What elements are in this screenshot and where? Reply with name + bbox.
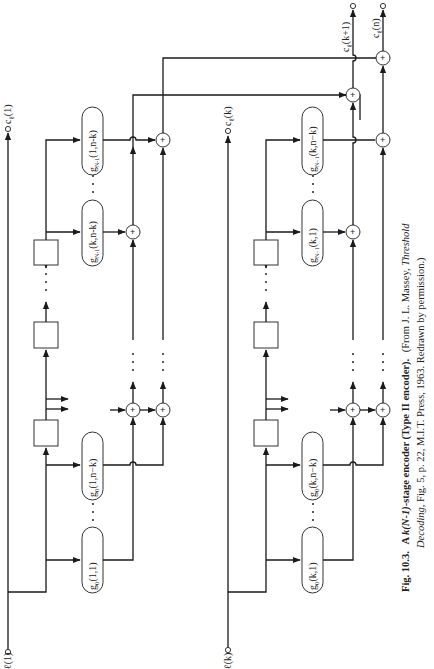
output-k1-terminal [350, 3, 355, 8]
svg-text:+: + [350, 405, 355, 415]
sr1-feed [8, 448, 46, 592]
delay-box [254, 322, 278, 348]
generator-g0-k-nk: g0(k,n−k) [302, 432, 323, 500]
delay-box [34, 240, 58, 265]
svg-text:Fig. 10.3. A k(N-1)-stag: Fig. 10.3. A k(N-1)-stage encoder (Type … [400, 223, 412, 592]
input-k-label: ℓ(k) [222, 653, 234, 669]
output-k-terminal [225, 128, 230, 133]
figure-caption: Fig. 10.3. A k(N-1)-stage encoder (Type … [400, 223, 427, 592]
delay-box [254, 420, 278, 446]
generator-gN1-k-1: gN−1(k,1) [302, 200, 323, 266]
generator-g0-1-nk: g0(1,n−k) [82, 432, 103, 500]
svg-text:+: + [380, 135, 385, 145]
svg-text:+: + [350, 90, 355, 100]
svg-text:+: + [130, 227, 135, 237]
output-k-label: cℓ(k) [222, 107, 236, 126]
output-n-terminal [380, 3, 385, 8]
output-1-terminal [5, 126, 10, 131]
delay-box [34, 420, 58, 446]
svg-text:+: + [160, 135, 165, 145]
svg-text:+: + [380, 405, 385, 415]
output-k1-label: cℓ(k+1) [340, 22, 354, 52]
section-2: g0(k,1) g0(k,n−k) gN−1(k,1) gN−1(k,n−k) … [225, 3, 390, 652]
generator-g0-1-1: g0(1,1) [82, 527, 103, 593]
svg-text:+: + [350, 227, 355, 237]
output-1-label: cℓ(1) [2, 105, 16, 124]
svg-text:+: + [380, 53, 385, 63]
svg-text:Decoding, Fig. 5, p. 22, M.I.T: Decoding, Fig. 5, p. 22, M.I.T. Press, 1… [415, 257, 427, 549]
svg-text:+: + [130, 405, 135, 415]
section-1: g0(1,1) g0(1,n−k) gN-1(k,n-k) gN-1(1,n-k… [5, 58, 390, 655]
delay-box [254, 240, 278, 265]
encoder-diagram: g0(1,1) g0(1,n−k) gN-1(k,n-k) gN-1(1,n-k… [0, 0, 434, 669]
delay-box [34, 322, 58, 348]
input-k-terminal [225, 647, 230, 652]
generator-gN1-k-nk: gN-1(k,n-k) [82, 200, 103, 266]
generator-gN1-1-nk: gN-1(1,n-k) [82, 107, 103, 175]
input-1-label: ℓ(1) [2, 653, 14, 669]
output-n-label: cℓ(n) [370, 19, 384, 38]
generator-g0-k-1: g0(k,1) [302, 527, 323, 593]
svg-text:+: + [160, 405, 165, 415]
sr1-tap-top [46, 140, 80, 240]
generator-gN1-k-nk: gN−1(k,n−k) [302, 107, 323, 175]
